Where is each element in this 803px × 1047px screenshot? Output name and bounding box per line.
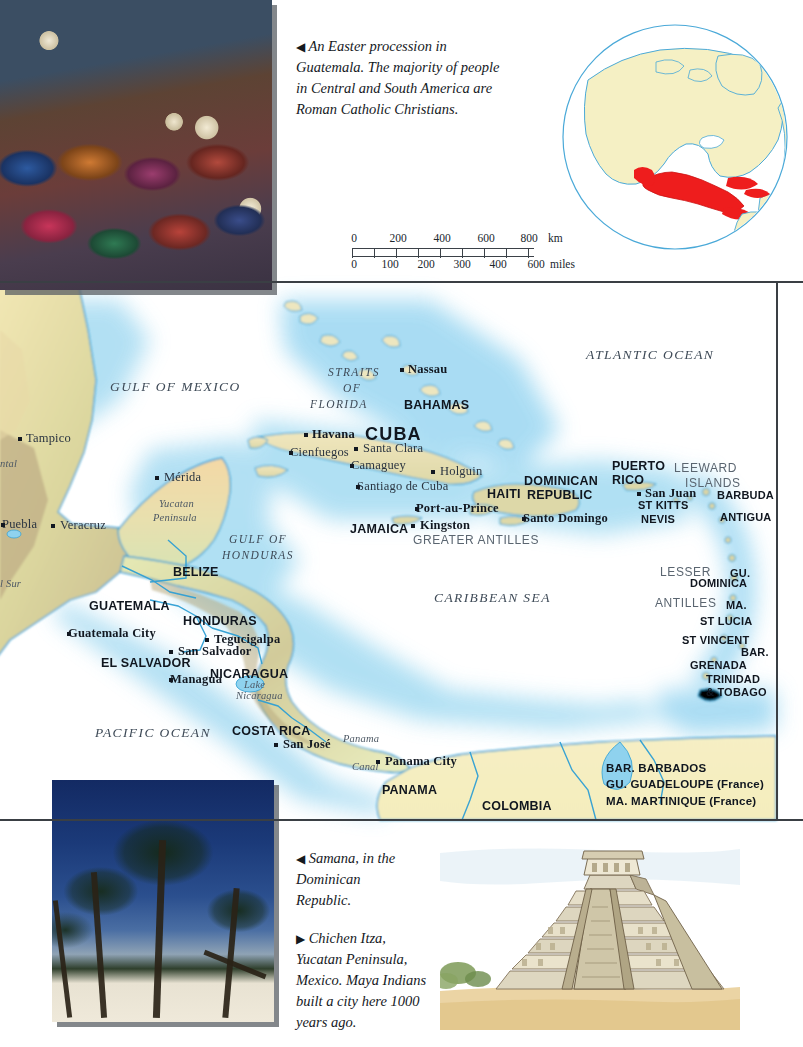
city-dot-santa-clara <box>354 447 358 451</box>
physical-label-ntal-6: ntal <box>0 458 17 469</box>
ocean-label-caribbean-sea: CARIBBEAN SEA <box>434 591 551 606</box>
sea-label-honduras-4: HONDURAS <box>222 549 294 561</box>
scale-miles-tick-2: 200 <box>417 258 434 270</box>
country-label-grenada-15: GRENADA <box>690 660 747 672</box>
country-label-barbuda-10: BARBUDA <box>717 490 774 502</box>
scale-miles-unit: miles <box>550 258 575 270</box>
physical-label-canal-5: Canal <box>352 761 379 772</box>
country-label-dominican-4: DOMINICAN <box>524 475 598 489</box>
ocean-label-pacific-ocean: PACIFIC OCEAN <box>95 726 211 741</box>
divider-bottom <box>0 819 803 821</box>
photo-samana-beach <box>52 780 274 1022</box>
scale-tickbar <box>352 248 534 257</box>
country-label-honduras-23: HONDURAS <box>183 615 257 629</box>
country-label-st-lucia-13: ST LUCIA <box>700 616 752 628</box>
legend-name-guadeloupe: GUADELOUPE <box>630 778 713 790</box>
country-label-el-salvador-24: EL SALVADOR <box>101 657 191 671</box>
legend-name-barbados: BARBADOS <box>638 762 706 774</box>
country-label-guatemala-22: GUATEMALA <box>89 600 170 614</box>
country-label-st-vincent-14: ST VINCENT <box>682 635 749 647</box>
city-label-camaguey-4: Camaguey <box>351 459 406 473</box>
caption-samana: ◀ Samana, in the Dominican Republic. <box>296 848 416 911</box>
globe-inset <box>560 22 790 252</box>
city-label-san-jos-19: San José <box>283 738 331 752</box>
city-label-kingston-8: Kingston <box>420 519 470 533</box>
legend-name-martinique: MARTINIQUE <box>631 795 706 807</box>
city-dot-san-salvador <box>169 650 173 654</box>
scale-miles-tick-0: 0 <box>351 258 357 270</box>
scale-miles-tick-1: 100 <box>381 258 398 270</box>
map-legend: BAR. BARBADOS GU. GUADELOUPE (France) MA… <box>606 760 764 809</box>
physical-label-yucatan-0: Yucatan <box>159 498 194 509</box>
country-label-jamaica-2: JAMAICA <box>350 523 408 537</box>
city-label-santa-clara-2: Santa Clara <box>363 442 423 456</box>
country-label-puerto-6: PUERTO <box>612 460 665 474</box>
caption-chichen-itza: ▶ Chichen Itza, Yucatan Peninsula, Mexic… <box>296 928 430 1033</box>
caption-arrow-left-2: ◀ <box>296 852 305 866</box>
city-dot-tegucigalpa <box>205 638 209 642</box>
city-label-santo-domingo-9: Santo Domingo <box>523 512 608 526</box>
city-label-guatemala-city-15: Guatemala City <box>68 627 156 641</box>
scale-miles-tick-5: 600 <box>527 258 544 270</box>
city-label-santiago-de-cuba-6: Santiago de Cuba <box>357 480 448 494</box>
scale-km-labels: 0 200 400 600 800 km <box>352 232 534 247</box>
city-label-m-rida-12: Mérida <box>164 471 201 485</box>
illustration-chichen-itza <box>440 845 740 1030</box>
country-label-st-kitts-8: ST KITTS <box>638 500 689 512</box>
city-dot-nassau <box>400 368 404 372</box>
city-label-nassau-0: Nassau <box>408 363 447 377</box>
country-label-ma-19: MA. <box>726 600 747 612</box>
scale-km-tick-0: 0 <box>351 232 357 244</box>
region-label-leeward-1: LEEWARD <box>674 462 737 475</box>
caption-text-samana: Samana, in the Dominican Republic. <box>296 850 395 908</box>
country-label-tobago-17: & TOBAGO <box>706 687 767 699</box>
scale-miles-tick-4: 400 <box>489 258 506 270</box>
scale-km-tick-1: 200 <box>389 232 406 244</box>
country-label-belize-21: BELIZE <box>173 566 219 580</box>
scale-bar: 0 200 400 600 800 km 0 100 200 300 400 6… <box>352 232 534 273</box>
country-label-haiti-3: HAITI <box>487 488 521 502</box>
sea-label-florida-2: FLORIDA <box>310 398 368 410</box>
country-label-rico-7: RICO <box>612 474 644 488</box>
city-dot-puebla <box>1 523 5 527</box>
city-label-havana-1: Havana <box>312 428 355 442</box>
city-dot-camaguey <box>350 464 354 468</box>
caption-arrow-left: ◀ <box>296 40 305 54</box>
city-label-san-juan-10: San Juan <box>645 487 696 501</box>
city-label-tampico-11: Tampico <box>26 432 71 446</box>
photo-easter-procession <box>0 0 272 290</box>
city-dot-santiago-de-cuba <box>356 485 360 489</box>
legend-note-guadeloupe: (France) <box>717 778 764 790</box>
divider-top <box>0 281 803 283</box>
city-dot-panama-city <box>376 760 380 764</box>
region-label-lesser-3: LESSER <box>660 566 711 579</box>
city-dot-holguin <box>431 470 435 474</box>
city-label-port-au-prince-7: Port-au-Prince <box>416 502 499 516</box>
city-label-panama-city-20: Panama City <box>385 755 457 769</box>
city-label-san-salvador-17: San Salvador <box>178 645 252 659</box>
country-label-gu-18: GU. <box>730 568 750 580</box>
city-dot-managua <box>169 678 173 682</box>
country-label-antigua-11: ANTIGUA <box>720 512 772 524</box>
city-dot-san-jos <box>274 743 278 747</box>
caption-easter-procession: ◀ An Easter procession in Guatemala. The… <box>296 36 506 120</box>
caption-text-chichen: Chichen Itza, Yucatan Peninsula, Mexico.… <box>296 930 426 1030</box>
physical-label-nicaragua-3: Nicaragua <box>236 690 283 701</box>
physical-label-lake-2: Lake <box>244 679 265 690</box>
city-dot-veracruz <box>51 524 55 528</box>
scale-miles-tick-3: 300 <box>453 258 470 270</box>
legend-row-martinique: MA. MARTINIQUE (France) <box>606 793 764 809</box>
ocean-label-atlantic-ocean: ATLANTIC OCEAN <box>586 348 714 363</box>
sea-label-gulf-of-3: GULF OF <box>229 533 287 545</box>
physical-label-peninsula-1: Peninsula <box>153 512 197 523</box>
sea-label-straits-0: STRAITS <box>328 366 380 378</box>
country-label-panama-27: PANAMA <box>382 784 437 798</box>
country-label-colombia-28: COLOMBIA <box>482 800 552 814</box>
legend-row-barbados: BAR. BARBADOS <box>606 760 764 776</box>
scale-km-tick-3: 600 <box>477 232 494 244</box>
city-label-holguin-5: Holguin <box>440 465 482 479</box>
legend-abbr-ma: MA. <box>606 795 628 807</box>
ocean-label-gulf-of-mexico: GULF OF MEXICO <box>110 380 241 395</box>
legend-note-martinique: (France) <box>709 795 756 807</box>
country-label-bahamas-0: BAHAMAS <box>404 399 469 413</box>
